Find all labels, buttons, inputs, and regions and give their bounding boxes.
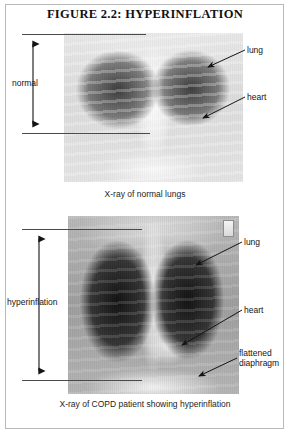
dimension-label-hyperinflation: hyperinflation: [7, 297, 58, 307]
dimension-ticks-normal: [22, 35, 150, 134]
dimension-label-normal: normal: [12, 78, 38, 88]
leader-lines-normal: [203, 50, 245, 118]
caption-copd-lungs: X-ray of COPD patient showing hyperinfla…: [0, 399, 290, 409]
label-flattened-diaphragm-copd: flattened diaphragm: [239, 348, 287, 368]
annotation-overlay: [0, 0, 290, 436]
label-lung-normal: lung: [247, 45, 263, 55]
label-heart-normal: heart: [247, 92, 266, 102]
leader-lines-copd: [182, 242, 242, 376]
label-lung-copd: lung: [244, 237, 260, 247]
caption-normal-lungs: X-ray of normal lungs: [0, 189, 290, 199]
label-heart-copd: heart: [244, 305, 263, 315]
